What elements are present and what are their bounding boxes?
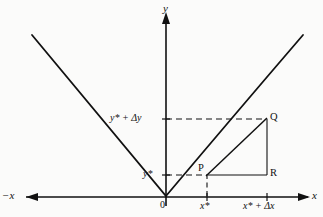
y-axis <box>162 12 170 206</box>
x-star-label: x* <box>200 201 209 211</box>
secant-line-p-q <box>206 118 267 176</box>
parabola-curve <box>32 35 303 196</box>
x-star-plus-delta-x-label: x* + Δx <box>243 201 275 211</box>
derivative-secant-diagram: y −x x 0 y* + Δy y* x* x* + Δx P Q R <box>0 0 323 217</box>
x-axis-label: x <box>312 190 317 201</box>
negative-x-axis-label: −x <box>2 190 14 201</box>
y-star-plus-delta-y-label: y* + Δy <box>110 113 142 123</box>
diagram-canvas <box>0 0 323 217</box>
positive-x-arrowhead <box>298 193 310 201</box>
point-p-label: P <box>198 163 204 174</box>
point-q-label: Q <box>270 112 278 123</box>
negative-x-arrowhead <box>26 193 38 201</box>
y-star-label: y* <box>143 169 152 179</box>
y-axis-label: y <box>163 3 168 14</box>
point-r-label: R <box>270 168 277 179</box>
origin-label: 0 <box>160 200 165 210</box>
